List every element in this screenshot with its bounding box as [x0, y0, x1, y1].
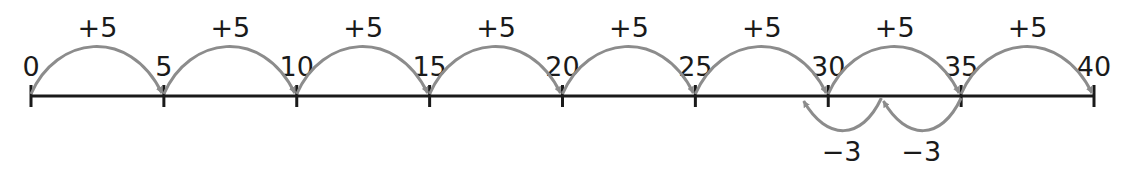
tick-labels: 0510152025303540	[22, 51, 1111, 82]
forward-jump-arc	[828, 47, 959, 94]
backward-jump-arc	[804, 98, 882, 131]
jump-label: +5	[78, 12, 118, 43]
jump-label: −3	[901, 136, 941, 167]
forward-jump-arc	[164, 47, 295, 94]
forward-jump-arc	[430, 47, 561, 94]
number-line-diagram: 0510152025303540 +5+5+5+5+5+5+5+5 −3−3	[0, 0, 1126, 176]
forward-jump-arc	[563, 47, 694, 94]
jump-label: +5	[476, 12, 516, 43]
jump-label: +5	[609, 12, 649, 43]
jump-label: +5	[875, 12, 915, 43]
backward-jumps: −3−3	[804, 98, 961, 167]
jump-label: +5	[343, 12, 383, 43]
forward-jump-arc	[695, 47, 826, 94]
jump-label: +5	[210, 12, 250, 43]
jump-label: +5	[742, 12, 782, 43]
jump-label: −3	[822, 136, 862, 167]
forward-jump-arc	[297, 47, 428, 94]
jump-label: +5	[1008, 12, 1048, 43]
tick-label: 5	[155, 51, 172, 82]
forward-jump-arc	[31, 47, 162, 94]
tick-label: 0	[22, 51, 39, 82]
forward-jump-arc	[961, 47, 1092, 94]
backward-jump-arc	[883, 98, 961, 131]
